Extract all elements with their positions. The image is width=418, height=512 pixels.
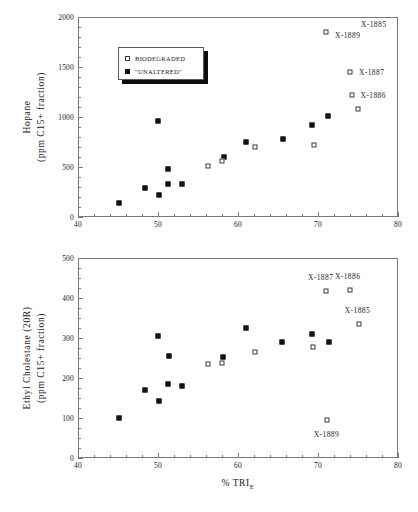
x-axis-minor-tick-ethyl-cholestane	[206, 455, 207, 458]
y-axis-minor-tick-ethyl-cholestane	[78, 388, 81, 389]
y-axis-tick-hopane	[78, 17, 83, 18]
y-axis-minor-tick-ethyl-cholestane	[78, 438, 81, 439]
y-axis-tick-label-ethyl-cholestane: 200	[42, 374, 74, 383]
data-point-biodegraded	[312, 143, 317, 148]
y-axis-tick-label-ethyl-cholestane: 500	[42, 254, 74, 263]
x-axis-minor-tick-hopane	[334, 214, 335, 217]
data-point-biodegraded	[349, 93, 354, 98]
y-axis-tick-label-hopane: 1500	[42, 63, 74, 72]
x-axis-tick-ethyl-cholestane	[398, 453, 399, 458]
data-point-unaltered	[156, 192, 161, 197]
x-axis-tick-label-ethyl-cholestane: 60	[234, 461, 242, 470]
data-point-unaltered	[166, 167, 171, 172]
y-axis-tick-hopane	[78, 167, 83, 168]
y-axis-minor-tick-ethyl-cholestane	[78, 448, 81, 449]
x-axis-minor-tick-hopane	[110, 214, 111, 217]
y-axis-minor-tick-ethyl-cholestane	[78, 288, 81, 289]
y-axis-minor-tick-hopane	[78, 197, 81, 198]
x-axis-tick-label-hopane: 80	[394, 220, 402, 229]
annotation-label: X-1885	[345, 306, 370, 315]
x-axis-minor-tick-hopane	[206, 214, 207, 217]
x-axis-minor-tick-ethyl-cholestane	[222, 455, 223, 458]
y-axis-minor-tick-ethyl-cholestane	[78, 428, 81, 429]
y-axis-minor-tick-hopane	[78, 187, 81, 188]
legend-box: BIODEGRADED "UNALTERED"	[118, 47, 204, 80]
x-axis-minor-tick-hopane	[366, 214, 367, 217]
x-axis-tick-label-ethyl-cholestane: 40	[74, 461, 82, 470]
y-axis-tick-label-ethyl-cholestane: 400	[42, 294, 74, 303]
data-point-unaltered	[180, 181, 185, 186]
data-point-biodegraded	[324, 289, 329, 294]
x-axis-tick-label-ethyl-cholestane: 70	[314, 461, 322, 470]
data-point-biodegraded	[311, 345, 316, 350]
y-axis-minor-tick-hopane	[78, 87, 81, 88]
annotation-label: X-1886	[361, 91, 386, 100]
annotation-label: X-1885	[361, 20, 386, 29]
data-point-biodegraded	[356, 107, 361, 112]
y-axis-tick-ethyl-cholestane	[78, 298, 83, 299]
y-axis-minor-tick-hopane	[78, 207, 81, 208]
x-axis-minor-tick-hopane	[382, 214, 383, 217]
y-axis-minor-tick-ethyl-cholestane	[78, 398, 81, 399]
figure-scatter-panels: Hopane (ppm C15+ fraction) BIODEGRADED "…	[0, 0, 418, 512]
data-point-unaltered	[156, 334, 161, 339]
y-axis-minor-tick-ethyl-cholestane	[78, 408, 81, 409]
x-axis-minor-tick-ethyl-cholestane	[270, 455, 271, 458]
data-point-unaltered	[280, 340, 285, 345]
y-axis-minor-tick-ethyl-cholestane	[78, 358, 81, 359]
data-point-biodegraded	[348, 288, 353, 293]
legend-entry-biodegraded: BIODEGRADED	[125, 52, 185, 64]
x-axis-tick-label-hopane: 60	[234, 220, 242, 229]
data-point-unaltered	[143, 186, 148, 191]
x-axis-minor-tick-hopane	[254, 214, 255, 217]
x-axis-tick-label-ethyl-cholestane: 50	[154, 461, 162, 470]
x-axis-tick-hopane	[158, 212, 159, 217]
data-point-unaltered	[116, 200, 121, 205]
y-axis-minor-tick-hopane	[78, 127, 81, 128]
annotation-label: X-1887	[359, 68, 384, 77]
x-axis-minor-tick-hopane	[350, 214, 351, 217]
y-axis-minor-tick-hopane	[78, 57, 81, 58]
y-axis-minor-tick-ethyl-cholestane	[78, 318, 81, 319]
annotation-label: X-1889	[314, 430, 339, 439]
x-axis-minor-tick-ethyl-cholestane	[334, 455, 335, 458]
y-axis-tick-hopane	[78, 217, 83, 218]
x-axis-minor-tick-hopane	[190, 214, 191, 217]
data-point-unaltered	[244, 326, 249, 331]
y-axis-tick-ethyl-cholestane	[78, 338, 83, 339]
y-axis-tick-label-hopane: 1000	[42, 113, 74, 122]
y-axis-minor-tick-hopane	[78, 97, 81, 98]
y-axis-tick-ethyl-cholestane	[78, 258, 83, 259]
data-point-unaltered	[116, 416, 121, 421]
y-axis-title-line1-ethyl-cholestane: Ethyl Cholestane (20R)	[22, 307, 32, 410]
x-axis-minor-tick-ethyl-cholestane	[286, 455, 287, 458]
x-axis-minor-tick-ethyl-cholestane	[366, 455, 367, 458]
y-axis-title-line1-hopane: Hopane	[22, 100, 32, 133]
annotation-label: X-1887	[308, 273, 333, 282]
x-axis-tick-hopane	[78, 212, 79, 217]
data-point-unaltered	[156, 399, 161, 404]
x-axis-title-text: % TRI	[221, 478, 249, 488]
data-point-biodegraded	[252, 144, 257, 149]
y-axis-minor-tick-ethyl-cholestane	[78, 368, 81, 369]
y-axis-minor-tick-hopane	[78, 27, 81, 28]
data-point-biodegraded	[348, 69, 353, 74]
x-axis-tick-hopane	[238, 212, 239, 217]
x-axis-minor-tick-hopane	[94, 214, 95, 217]
x-axis-minor-tick-ethyl-cholestane	[382, 455, 383, 458]
x-axis-tick-label-hopane: 50	[154, 220, 162, 229]
x-axis-minor-tick-ethyl-cholestane	[110, 455, 111, 458]
annotation-label: X-1889	[335, 31, 360, 40]
y-axis-tick-label-ethyl-cholestane: 0	[42, 454, 74, 463]
y-axis-title-line2-ethyl-cholestane: (ppm C15+ fraction)	[36, 313, 46, 403]
x-axis-minor-tick-hopane	[302, 214, 303, 217]
data-point-unaltered	[280, 136, 285, 141]
y-axis-tick-label-hopane: 2000	[42, 13, 74, 22]
data-point-biodegraded	[324, 29, 329, 34]
x-axis-tick-ethyl-cholestane	[78, 453, 79, 458]
y-axis-minor-tick-ethyl-cholestane	[78, 278, 81, 279]
x-axis-tick-ethyl-cholestane	[238, 453, 239, 458]
x-axis-minor-tick-hopane	[286, 214, 287, 217]
y-axis-minor-tick-hopane	[78, 107, 81, 108]
open-square-icon	[125, 56, 130, 61]
